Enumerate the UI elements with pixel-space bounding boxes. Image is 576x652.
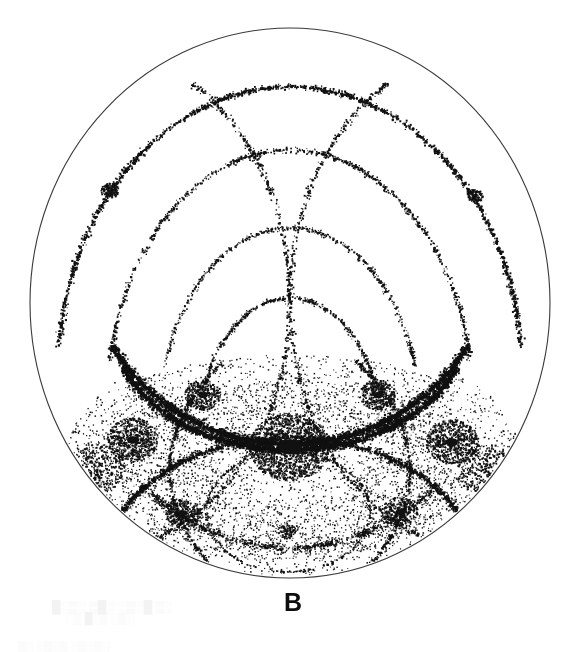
panel-label: B xyxy=(5,590,576,615)
